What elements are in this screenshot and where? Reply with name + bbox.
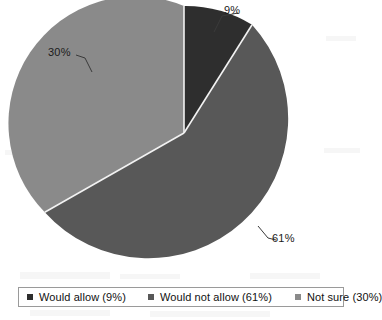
legend-swatch-icon (27, 294, 33, 300)
scan-artifact (20, 272, 110, 279)
legend-label: Would not allow (61%) (160, 291, 272, 303)
legend-item-would-not-allow[interactable]: Would not allow (61%) (148, 288, 272, 306)
scan-artifact (150, 311, 270, 317)
scan-artifact (250, 273, 320, 279)
legend-swatch-icon (148, 294, 154, 300)
data-label-would-allow: 9% (224, 4, 240, 16)
scan-artifact (120, 274, 180, 279)
legend-swatch-icon (295, 294, 301, 300)
chart-plot-area: 9% 30% 61% (0, 0, 364, 272)
legend-label: Not sure (30%) (307, 291, 382, 303)
legend-item-would-allow[interactable]: Would allow (9%) (27, 288, 126, 306)
data-label-would-not-allow: 61% (272, 232, 295, 244)
chart-legend: Would allow (9%) Would not allow (61%) N… (18, 287, 344, 307)
legend-item-not-sure[interactable]: Not sure (30%) (295, 288, 382, 306)
legend-label: Would allow (9%) (39, 291, 126, 303)
scan-artifact (30, 310, 110, 316)
pie-svg (0, 0, 364, 272)
data-label-not-sure: 30% (48, 46, 71, 58)
